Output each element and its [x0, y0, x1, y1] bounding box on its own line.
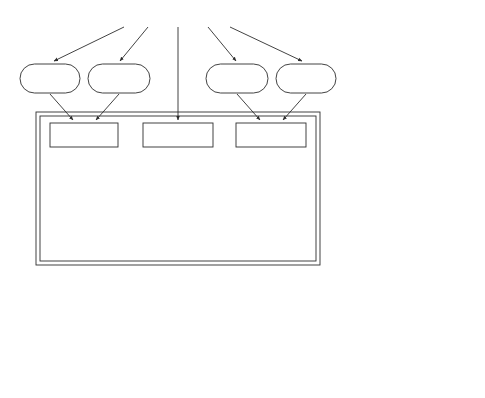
arrow-title-to-intake-na	[230, 27, 302, 61]
box-loss-gastric-hcl	[143, 123, 213, 147]
pill-loss-gastric-nacl	[206, 64, 268, 93]
arrow-title-to-intake-k	[54, 27, 124, 61]
pill-intake-k	[0, 0, 80, 93]
vomiting-alkalosis-diagram	[0, 0, 485, 398]
arrow-title-to-loss-nacl	[208, 27, 236, 61]
arrow-title-to-loss-kcl	[120, 27, 148, 61]
pill-loss-gastric-kcl	[88, 64, 150, 93]
box-contraction-ecf	[236, 123, 306, 147]
